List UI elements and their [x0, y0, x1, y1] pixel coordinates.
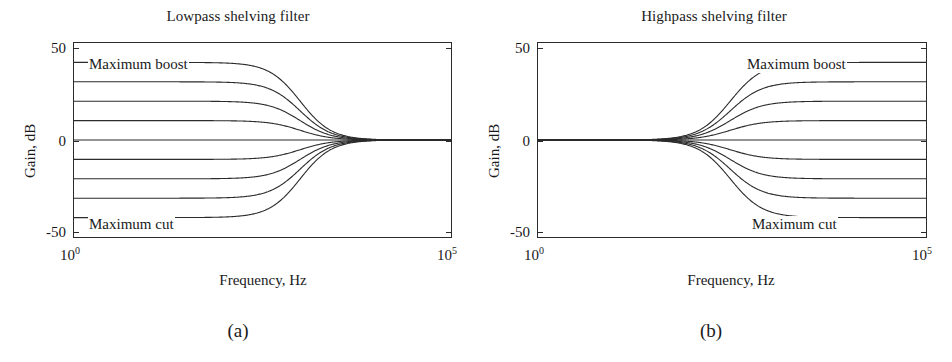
xtick-mark-b-top-1e5	[926, 42, 927, 48]
yaxis-label-b: Gain, dB	[486, 124, 503, 178]
xtick-label-a-1e5: 105	[437, 246, 457, 263]
annotation-a-maximum-boost: Maximum boost	[88, 56, 189, 73]
ytick-label-b-neg50: -50	[482, 225, 530, 240]
filter-curve	[74, 121, 451, 140]
plot-title-b: Highpass shelving filter	[476, 8, 952, 25]
xtick-label-b-1e5: 105	[912, 246, 932, 263]
plot-axes-b	[537, 42, 927, 238]
xtick-mark-a-top-1e5	[451, 42, 452, 48]
ytick-mark-a-right-50	[446, 48, 452, 49]
ytick-mark-b-right-50	[921, 48, 927, 49]
xtick-mark-b-1e5	[926, 232, 927, 238]
filter-curve	[74, 82, 451, 140]
xtick-mark-b-1	[537, 232, 538, 238]
ytick-mark-a-right-0	[446, 141, 452, 142]
ytick-mark-a-50	[73, 48, 79, 49]
caption-b: (b)	[661, 320, 761, 342]
xaxis-label-b: Frequency, Hz	[581, 272, 881, 289]
filter-curve	[538, 121, 926, 140]
xtick-label-a-1: 100	[60, 246, 80, 263]
ytick-label-a-50: 50	[18, 41, 66, 56]
xtick-mark-a-top-1	[73, 42, 74, 48]
ytick-label-b-50: 50	[482, 41, 530, 56]
filter-curve	[74, 140, 451, 198]
filter-curve	[538, 82, 926, 140]
annotation-a-maximum-cut: Maximum cut	[88, 216, 175, 233]
curve-canvas-b	[538, 43, 926, 237]
figure-two-shelving-filter-plots: Lowpass shelving filter 50 0 -50 100 105…	[0, 0, 952, 362]
panel-highpass-shelving: Highpass shelving filter 50 0 -50 100 10…	[476, 0, 952, 362]
ytick-mark-b-right-0	[921, 141, 927, 142]
plot-title-a: Lowpass shelving filter	[0, 8, 476, 25]
filter-curve	[538, 140, 926, 159]
caption-a: (a)	[188, 320, 288, 342]
xtick-mark-b-top-1	[537, 42, 538, 48]
xaxis-label-a: Frequency, Hz	[113, 272, 413, 289]
filter-curve	[74, 140, 451, 159]
ytick-label-a-neg50: -50	[18, 225, 66, 240]
annotation-b-maximum-cut: Maximum cut	[751, 216, 838, 233]
panel-lowpass-shelving: Lowpass shelving filter 50 0 -50 100 105…	[0, 0, 476, 362]
annotation-b-maximum-boost: Maximum boost	[746, 56, 847, 73]
filter-curve	[538, 140, 926, 198]
yaxis-label-a: Gain, dB	[22, 124, 39, 178]
xtick-label-b-1: 100	[524, 246, 544, 263]
xtick-mark-a-1e5	[451, 232, 452, 238]
xtick-mark-a-1	[73, 232, 74, 238]
ytick-mark-b-0	[537, 141, 543, 142]
ytick-mark-b-50	[537, 48, 543, 49]
ytick-mark-a-0	[73, 141, 79, 142]
